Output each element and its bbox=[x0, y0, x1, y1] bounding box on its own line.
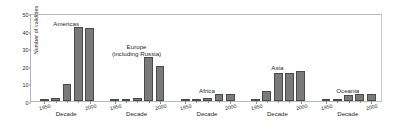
panel-title: Africa bbox=[172, 87, 242, 94]
x-axis-minor-tick-mark bbox=[78, 101, 79, 103]
x-axis-title: Decade bbox=[101, 110, 171, 117]
plot-area: Number of validities 01020304050 America… bbox=[30, 14, 382, 102]
x-axis-minor-tick-mark bbox=[219, 101, 220, 103]
x-axis-minor-tick-mark bbox=[196, 101, 197, 103]
y-axis-tick-mark bbox=[29, 103, 31, 104]
panel-oceania: Oceania19502000Decade bbox=[313, 15, 383, 101]
x-axis-minor-tick-mark bbox=[289, 101, 290, 103]
x-axis-title: Decade bbox=[31, 110, 101, 117]
y-axis-tick-label: 40 bbox=[23, 30, 29, 36]
panel-americas: Americas19502000Decade bbox=[31, 15, 101, 101]
x-axis-title: Decade bbox=[313, 110, 383, 117]
bar bbox=[274, 73, 283, 101]
bar bbox=[226, 94, 235, 101]
x-axis-minor-tick-mark bbox=[149, 101, 150, 103]
panel-europe: Europe (including Russia)19502000Decade bbox=[101, 15, 171, 101]
bar-group bbox=[242, 15, 312, 101]
y-axis-tick-label: 10 bbox=[23, 82, 29, 88]
bar bbox=[262, 91, 271, 101]
bar-group bbox=[31, 15, 101, 101]
panel-title: Europe (including Russia) bbox=[101, 43, 171, 57]
panel-title: Oceania bbox=[313, 87, 383, 94]
bar bbox=[144, 57, 153, 101]
bar bbox=[85, 28, 94, 101]
x-axis-minor-tick-mark bbox=[278, 101, 279, 103]
bar bbox=[63, 84, 72, 101]
y-axis-tick-label: 50 bbox=[23, 12, 29, 18]
panel-asia: Asia19502000Decade bbox=[242, 15, 312, 101]
x-axis-minor-tick-mark bbox=[337, 101, 338, 103]
x-axis-minor-tick-mark bbox=[208, 101, 209, 103]
bar bbox=[285, 73, 294, 101]
bar bbox=[156, 66, 165, 101]
x-axis-minor-tick-mark bbox=[267, 101, 268, 103]
bar bbox=[367, 94, 376, 101]
x-axis-minor-tick-mark bbox=[137, 101, 138, 103]
y-axis-tick-label: 20 bbox=[23, 65, 29, 71]
bar-group bbox=[101, 15, 171, 101]
panel-africa: Africa19502000Decade bbox=[172, 15, 242, 101]
x-axis-minor-tick-mark bbox=[349, 101, 350, 103]
bar bbox=[355, 94, 364, 101]
panel-title: Asia bbox=[242, 64, 312, 71]
bar bbox=[215, 94, 224, 101]
x-axis-minor-tick-mark bbox=[126, 101, 127, 103]
y-axis-tick-label: 30 bbox=[23, 47, 29, 53]
bar-chart: Number of validities 01020304050 America… bbox=[0, 0, 393, 132]
x-axis-minor-tick-mark bbox=[360, 101, 361, 103]
bar bbox=[74, 27, 83, 101]
bar bbox=[296, 71, 305, 101]
x-axis-minor-tick-mark bbox=[56, 101, 57, 103]
x-axis-title: Decade bbox=[172, 110, 242, 117]
panel-title: Americas bbox=[31, 20, 101, 27]
x-axis-minor-tick-mark bbox=[67, 101, 68, 103]
x-axis-title: Decade bbox=[242, 110, 312, 117]
